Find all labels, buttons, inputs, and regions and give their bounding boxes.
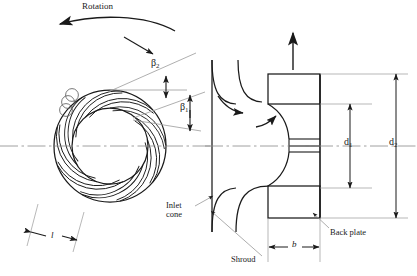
d1-label: d1 (344, 137, 352, 148)
back-plate-leader (313, 213, 329, 228)
inlet-cone-upper (212, 60, 236, 104)
beta1-subscript: 1 (185, 106, 188, 113)
inlet-cone-label-line2: cone (166, 209, 182, 219)
width-b-label: b (292, 240, 297, 249)
passage-flow-arrow (256, 116, 276, 127)
blade-upper-box (268, 74, 320, 104)
d2-subscript: 2 (394, 141, 397, 148)
d2-label: d2 (389, 137, 397, 148)
d1-subscript: 1 (349, 141, 352, 148)
hub-lower-profile (268, 152, 289, 186)
figure-canvas: Rotation β2 β1 l Inletcone Shroud Back p… (0, 0, 417, 276)
impeller-blades (44, 80, 178, 214)
inlet-cone-leader (195, 196, 213, 206)
beta2-subscript: 2 (156, 62, 159, 69)
rotation-label: Rotation (82, 2, 113, 11)
shaft-boss-detail (289, 139, 320, 152)
shroud-lower-curve (236, 186, 268, 232)
blade-lower-box (268, 186, 320, 218)
back-plate-label: Back plate (330, 228, 366, 237)
shroud-upper-curve (238, 60, 262, 102)
inlet-cone-label: Inletcone (166, 201, 182, 219)
beta2-label: β2 (151, 58, 160, 69)
blade-length-label: l (51, 231, 54, 240)
blade-length-dimension (27, 204, 84, 252)
beta1-angle-construction (133, 92, 205, 131)
inlet-cone-lower (212, 188, 236, 232)
rotation-arrow (60, 17, 175, 31)
shroud-label: Shroud (231, 255, 256, 264)
hub-upper-profile (268, 104, 289, 139)
beta1-label: β1 (180, 102, 189, 113)
section-view (205, 33, 417, 232)
